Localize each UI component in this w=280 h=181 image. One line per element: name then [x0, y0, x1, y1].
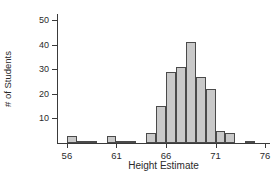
histogram-bar — [216, 131, 226, 143]
histogram-figure: # of Students 1020304050 5661667176 Heig… — [0, 0, 280, 181]
histogram-bar — [206, 89, 216, 143]
histogram-bar — [116, 141, 126, 143]
x-axis-line — [57, 143, 270, 144]
histogram-bar — [166, 72, 176, 143]
histogram-bar — [225, 133, 235, 143]
y-axis-tick — [52, 20, 58, 21]
y-axis-tick-label: 20 — [29, 89, 49, 98]
histogram-bar — [196, 77, 206, 143]
plot-area: 1020304050 5661667176 — [57, 14, 270, 144]
x-axis-tick — [216, 143, 217, 148]
histogram-bar — [67, 136, 77, 143]
x-axis-label: Height Estimate — [57, 160, 270, 171]
y-axis-tick — [52, 69, 58, 70]
y-axis-tick — [52, 94, 58, 95]
histogram-bar — [107, 136, 117, 143]
x-axis-tick — [265, 143, 266, 148]
x-axis-tick — [166, 143, 167, 148]
histogram-bar — [176, 67, 186, 143]
histogram-bar — [146, 133, 156, 143]
histogram-bar — [186, 42, 196, 143]
y-axis-tick-label: 50 — [29, 16, 49, 25]
histogram-bar — [77, 141, 87, 143]
x-axis-tick — [67, 143, 68, 148]
histogram-bar — [87, 141, 97, 143]
histogram-bar — [245, 141, 255, 143]
y-axis-label: # of Students — [2, 14, 14, 144]
x-axis-tick — [116, 143, 117, 148]
y-axis-tick-label: 40 — [29, 40, 49, 49]
y-axis-tick-label: 30 — [29, 65, 49, 74]
y-axis-tick — [52, 118, 58, 119]
y-axis-line — [57, 14, 58, 144]
histogram-bar — [156, 106, 166, 143]
histogram-bar — [126, 141, 136, 143]
y-axis-tick — [52, 45, 58, 46]
y-axis-tick-label: 10 — [29, 114, 49, 123]
